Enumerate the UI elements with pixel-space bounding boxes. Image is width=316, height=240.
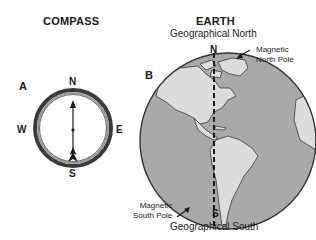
- compass-east-label: E: [116, 124, 123, 135]
- magnetic-south-line2: South Pole: [133, 211, 172, 221]
- earth-title: EARTH: [196, 15, 235, 27]
- magnetic-north-line1: Magnetic: [256, 45, 294, 55]
- magnetic-south-pole-label: Magnetic South Pole: [133, 201, 172, 221]
- compass-title: COMPASS: [43, 15, 99, 27]
- earth-south-marker: S: [212, 208, 219, 219]
- magnetic-south-line1: Magnetic: [133, 201, 172, 211]
- geographical-north-label: Geographical North: [170, 28, 257, 39]
- earth-north-marker: N: [210, 44, 217, 55]
- panel-label-a: A: [19, 80, 27, 92]
- compass-west-label: W: [17, 124, 26, 135]
- compass-south-label: S: [69, 168, 76, 179]
- magnetic-north-pole-label: Magnetic North Pole: [256, 45, 294, 65]
- magnetic-north-line2: North Pole: [256, 55, 294, 65]
- panel-label-b: B: [145, 69, 153, 81]
- geographical-south-label: Geographical South: [170, 221, 258, 232]
- compass-north-label: N: [69, 76, 76, 87]
